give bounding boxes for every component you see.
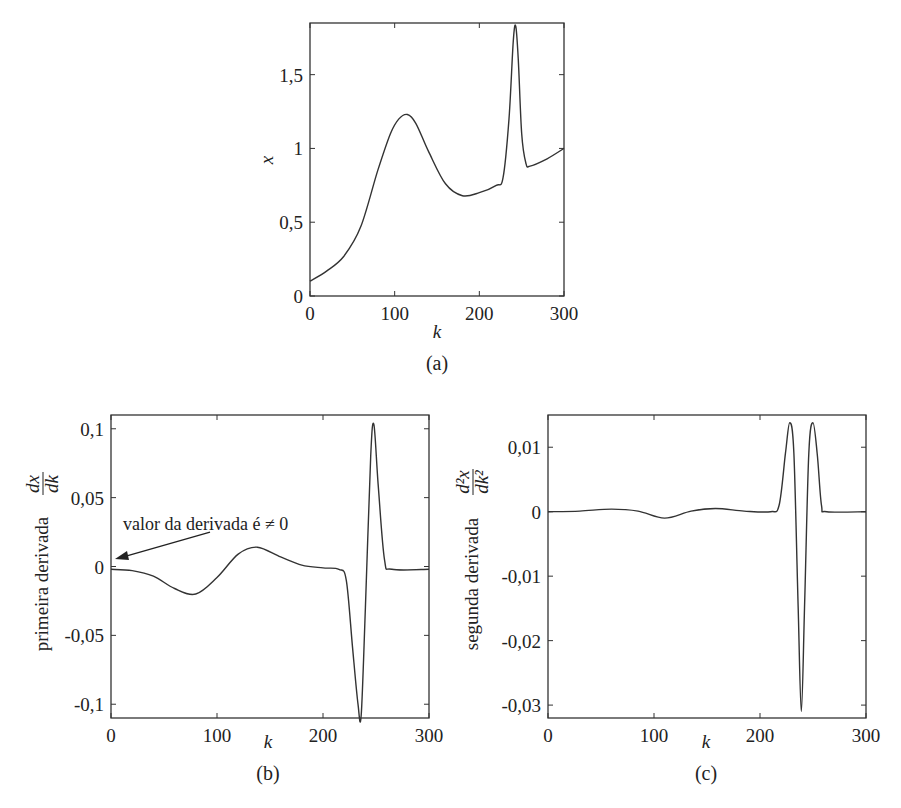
panel-b-chart: -0,1-0,0500,050,1 0100200300 valor da de…: [22, 415, 443, 785]
panel-c-chart: -0,03-0,02-0,0100,01 0100200300 k segund…: [452, 415, 880, 785]
y-axis-frac-den: dk²: [471, 470, 492, 494]
x-ticks: 0100200300: [305, 23, 578, 324]
x-tick-label: 0: [543, 725, 553, 746]
y-axis-label: x: [256, 155, 277, 165]
x-tick-label: 100: [203, 725, 232, 746]
plot-frame: [111, 415, 429, 718]
y-axis-frac-den: dk: [41, 474, 62, 493]
y-axis-label: segunda derivada d²x dk²: [452, 469, 492, 650]
y-axis-frac-num: dx: [22, 474, 43, 493]
x-ticks: 0100200300: [543, 415, 880, 746]
y-tick-label: 1,5: [279, 65, 303, 86]
y-ticks: -0,1-0,0500,050,1: [64, 419, 429, 715]
figure: 00,511,5 0100200300 k x (a) -0,1-0,0500,…: [0, 0, 901, 808]
plot-frame: [310, 23, 564, 296]
x-tick-label: 200: [746, 725, 775, 746]
y-tick-label: -0,03: [501, 695, 541, 716]
y-tick-label: 0: [294, 286, 304, 307]
x-axis-label: k: [433, 321, 442, 342]
y-tick-label: -0,02: [501, 631, 541, 652]
x-axis-label: k: [702, 731, 711, 752]
y-ticks: -0,03-0,02-0,0100,01: [501, 437, 866, 716]
y-ticks: 00,511,5: [279, 65, 564, 307]
y-tick-label: 0,05: [71, 488, 104, 509]
x-ticks: 0100200300: [106, 415, 443, 746]
x-tick-label: 100: [640, 725, 669, 746]
y-tick-label: 0,1: [80, 419, 104, 440]
y-tick-label: 1: [294, 138, 304, 159]
y-axis-frac-num: d²x: [452, 470, 473, 494]
x-tick-label: 300: [550, 303, 579, 324]
x-tick-label: 200: [309, 725, 338, 746]
annotation-text: valor da derivada é ≠ 0: [123, 514, 288, 534]
y-tick-label: -0,01: [501, 566, 541, 587]
x-tick-label: 300: [415, 725, 444, 746]
y-axis-label: primeira derivada dx dk: [22, 472, 62, 651]
y-tick-label: 0: [532, 502, 542, 523]
x-axis-label: k: [264, 731, 273, 752]
data-line: [111, 423, 429, 722]
data-line: [310, 25, 564, 281]
annotation: valor da derivada é ≠ 0: [115, 514, 288, 560]
panel-label: (b): [256, 762, 279, 785]
arrowhead-icon: [115, 551, 129, 560]
y-tick-label: -0,05: [64, 625, 104, 646]
y-tick-label: 0: [95, 557, 105, 578]
y-tick-label: -0,1: [74, 694, 104, 715]
x-tick-label: 0: [305, 303, 315, 324]
panel-label: (a): [426, 352, 448, 375]
x-tick-label: 200: [465, 303, 494, 324]
data-line: [548, 423, 866, 712]
y-axis-label-text: segunda derivada: [461, 517, 482, 650]
y-tick-label: 0,01: [508, 437, 541, 458]
x-tick-label: 100: [380, 303, 409, 324]
annotation-arrow: [126, 532, 210, 556]
panel-a-chart: 00,511,5 0100200300 k x (a): [256, 23, 578, 375]
x-tick-label: 0: [106, 725, 116, 746]
y-axis-label-text: primeira derivada: [31, 516, 52, 651]
x-tick-label: 300: [852, 725, 881, 746]
panel-label: (c): [695, 762, 717, 785]
y-tick-label: 0,5: [279, 212, 303, 233]
